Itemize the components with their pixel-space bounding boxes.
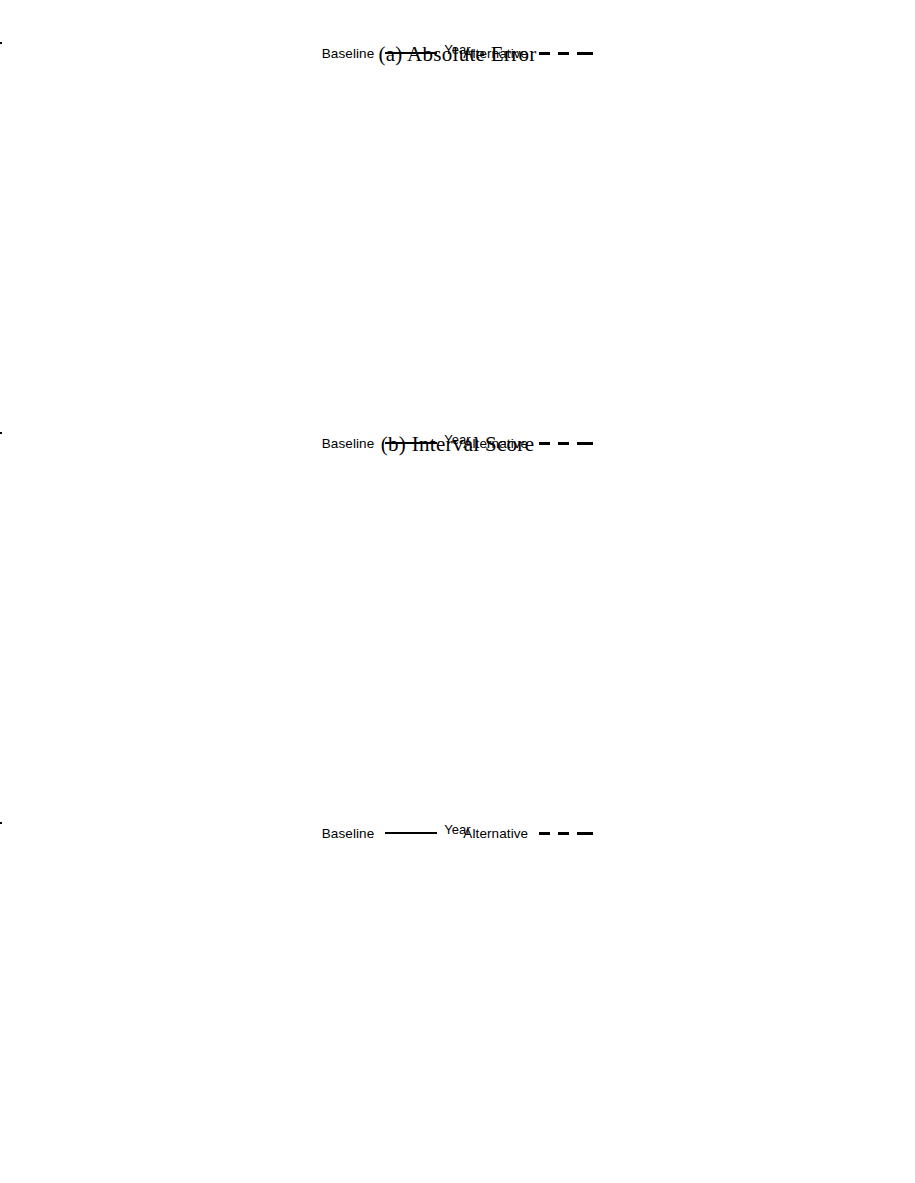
subfigure-a: Baseline Alternative Year (a) Absolute E… [0, 42, 915, 392]
subfigure-c: Baseline Alternative Year [0, 822, 915, 1172]
subfigure-b: Baseline Alternative Year (b) Interval S… [0, 432, 915, 782]
figure-root: Baseline Alternative Year (a) Absolute E… [0, 0, 915, 1183]
axis-top-labels-a [0, 98, 915, 112]
caption-a: (a) Absolute Error [0, 42, 915, 67]
x-axis-title-c: Year [0, 822, 915, 837]
caption-b: (b) Interval Score [0, 432, 915, 457]
